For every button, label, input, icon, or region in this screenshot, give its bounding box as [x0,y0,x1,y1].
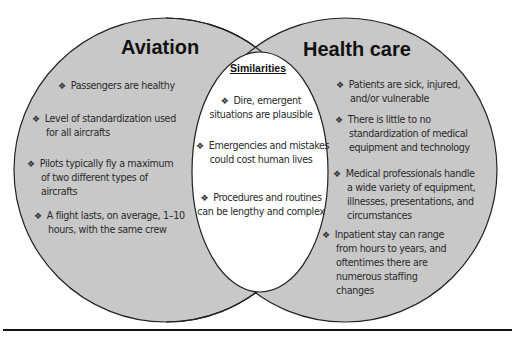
bottom-divider-rule [3,329,512,331]
item-text: Inpatient stay can range [335,229,444,240]
item-text: changes [322,284,446,298]
item-text: from hours to years, and [322,242,446,256]
diamond-bullet-icon: ❖ [58,79,66,93]
item-text: Dire, emergent [234,95,302,106]
item-text: and/or vulnerable [336,92,460,106]
diamond-bullet-icon: ❖ [335,113,343,127]
item-text: can be lengthy and complex [196,205,326,219]
item-text: for all aircrafts [32,126,176,140]
aviation-item: ❖Level of standardization used for all a… [32,112,176,140]
item-text: circumstances [333,209,476,223]
item-text: Pilots typically fly a maximum [40,158,174,169]
similarities-ellipse [192,52,328,292]
item-text: Medical professionals handle [346,168,475,179]
item-text: There is little to no [348,114,431,125]
diamond-bullet-icon: ❖ [200,191,208,205]
item-text: a wide variety of equipment, [333,181,476,195]
item-text: of two different types of [27,171,173,185]
similarity-item: ❖Procedures and routines can be lengthy … [196,191,326,219]
item-text: aircrafts [27,185,173,199]
healthcare-item: ❖Inpatient stay can range from hours to … [322,228,446,298]
diamond-bullet-icon: ❖ [336,78,344,92]
diamond-bullet-icon: ❖ [221,94,229,108]
diamond-bullet-icon: ❖ [32,112,40,126]
item-text: could cost human lives [196,153,326,167]
aviation-title: Aviation [121,37,199,57]
item-text: Patients are sick, injured, [349,79,460,90]
item-text: oftentimes there are [322,256,446,270]
healthcare-item: ❖Medical professionals handle a wide var… [333,167,476,223]
healthcare-item: ❖There is little to no standardization o… [335,113,470,155]
item-text: Procedures and routines [213,192,321,203]
diamond-bullet-icon: ❖ [27,157,35,171]
item-text: Emergencies and mistakes [209,140,330,151]
item-text: Level of standardization used [45,113,176,124]
item-text: hours, with the same crew [34,223,185,237]
aviation-item: ❖Passengers are healthy [58,79,175,93]
item-text: Passengers are healthy [71,80,175,91]
item-text: numerous staffing [322,270,446,284]
healthcare-title: Health care [303,39,411,59]
item-text: illnesses, presentations, and [333,195,476,209]
diamond-bullet-icon: ❖ [333,167,341,181]
item-text: equipment and technology [335,141,470,155]
item-text: standardization of medical [335,127,470,141]
similarity-item: ❖Emergencies and mistakes could cost hum… [196,139,326,167]
item-text: A flight lasts, on average, 1–10 [47,210,185,221]
similarity-item: ❖Dire, emergent situations are plausible [196,94,326,122]
similarities-title: Similarities [230,63,286,74]
diamond-bullet-icon: ❖ [196,139,204,153]
aviation-item: ❖A flight lasts, on average, 1–10 hours,… [34,209,185,237]
diamond-bullet-icon: ❖ [322,228,330,242]
item-text: situations are plausible [196,108,326,122]
healthcare-item: ❖Patients are sick, injured, and/or vuln… [336,78,460,106]
diamond-bullet-icon: ❖ [34,209,42,223]
aviation-item: ❖Pilots typically fly a maximum of two d… [27,157,173,199]
